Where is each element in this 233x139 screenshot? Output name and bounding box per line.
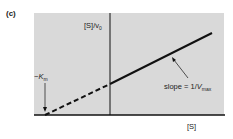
plot-background bbox=[34, 13, 224, 115]
x-axis-label: [S] bbox=[187, 122, 196, 131]
hanes-woolf-plot: [S]/v0 −Km slope = 1/Vmax [S] bbox=[0, 0, 233, 139]
